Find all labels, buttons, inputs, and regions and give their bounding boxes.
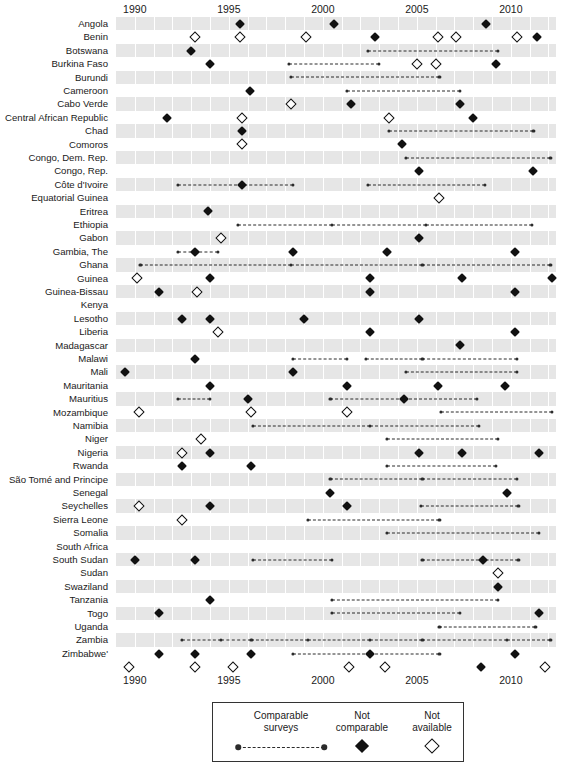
segment-endpoint	[346, 357, 349, 360]
country-label: Swaziland	[64, 580, 108, 593]
x-tick-1995: 1995	[217, 2, 240, 16]
x-tick-2005: 2005	[405, 2, 428, 16]
comparable-survey-segment	[308, 640, 370, 641]
comparable-survey-segment	[330, 398, 403, 399]
not-comparable-marker	[365, 273, 375, 283]
not-comparable-marker	[154, 649, 164, 659]
comparable-survey-segment	[422, 559, 518, 560]
country-label: Malawi	[78, 352, 108, 365]
legend-dash-line	[238, 747, 324, 748]
x-tick-2010: 2010	[499, 673, 522, 687]
country-label: Ethiopia	[73, 218, 108, 231]
not-available-marker	[411, 58, 422, 69]
legend-label: available	[401, 722, 463, 734]
chart-legend: ComparablesurveysNotcomparableNotavailab…	[212, 702, 464, 762]
segment-endpoint	[364, 357, 367, 360]
legend-item: Notavailable	[401, 710, 463, 755]
segment-endpoint	[459, 89, 462, 92]
comparable-survey-segment	[406, 157, 551, 158]
row-band	[116, 285, 556, 298]
not-comparable-marker	[433, 381, 443, 391]
not-available-marker	[432, 31, 443, 42]
country-label: Senegal	[73, 486, 108, 499]
legend-label: surveys	[233, 722, 329, 734]
segment-endpoint	[331, 598, 334, 601]
gridline-1990	[135, 17, 136, 668]
legend-label: Comparable	[233, 710, 329, 722]
country-label: Zimbabwe'	[62, 647, 108, 660]
gridline-2005	[417, 17, 418, 668]
country-label: Cabo Verde	[57, 97, 108, 110]
segment-endpoint	[385, 464, 388, 467]
comparable-survey-segment	[178, 398, 210, 399]
comparable-survey-segment	[291, 77, 440, 78]
not-available-marker	[492, 567, 503, 578]
not-comparable-marker	[532, 32, 542, 42]
not-comparable-marker	[468, 113, 478, 123]
comparable-survey-segment	[368, 184, 485, 185]
country-label: Burundi	[75, 71, 108, 84]
comparable-survey-segment	[293, 358, 348, 359]
country-label: Guinea-Bissau	[45, 285, 108, 298]
segment-endpoint	[438, 625, 441, 628]
comparable-survey-segment	[404, 398, 477, 399]
country-label: South Sudan	[53, 553, 108, 566]
not-available-marker	[300, 31, 311, 42]
comparable-survey-segment	[308, 519, 440, 520]
country-label: Sierra Leone	[53, 513, 108, 526]
segment-endpoint	[331, 223, 334, 226]
comparable-survey-segment	[422, 479, 516, 480]
country-label: Chad	[85, 124, 108, 137]
x-tick-1995: 1995	[217, 673, 240, 687]
country-label: Guinea	[77, 272, 108, 285]
country-label: Gambia, The	[53, 245, 108, 258]
country-label: Rwanda	[73, 459, 108, 472]
not-comparable-marker	[476, 662, 486, 672]
comparable-symbol	[233, 739, 329, 755]
comparable-survey-segment	[178, 184, 293, 185]
gridline-2006	[436, 17, 437, 668]
survey-availability-chart: 19901995200020052010 AngolaBeninBotswana…	[0, 0, 564, 770]
comparable-survey-segment	[421, 506, 519, 507]
comparable-survey-segment	[370, 653, 440, 654]
legend-label: Not	[331, 710, 393, 722]
x-tick-2010: 2010	[499, 2, 522, 16]
comparable-survey-segment	[441, 412, 552, 413]
gridline-2011	[530, 17, 531, 668]
gridline-2003	[379, 17, 380, 668]
comparable-survey-segment	[238, 224, 332, 225]
segment-endpoint	[425, 223, 428, 226]
country-label: Mali	[90, 365, 108, 378]
comparable-survey-segment	[387, 439, 498, 440]
plot-area	[116, 17, 556, 668]
row-band	[116, 97, 556, 110]
not-comparable-marker	[457, 273, 467, 283]
not-comparable-marker	[288, 247, 298, 257]
comparable-survey-segment	[289, 63, 379, 64]
not-available-marker	[511, 31, 522, 42]
country-label: Sudan	[80, 566, 108, 579]
legend-open-diamond	[424, 738, 440, 754]
segment-endpoint	[346, 89, 349, 92]
country-label: South Africa	[56, 540, 108, 553]
comparable-survey-segment	[253, 559, 332, 560]
legend-item: Comparablesurveys	[233, 710, 329, 755]
x-axis-bottom: 19901995200020052010	[0, 673, 564, 687]
row-band	[116, 205, 556, 218]
country-label: Seychelles	[62, 499, 108, 512]
gridline-2012	[548, 17, 549, 668]
gridline-1999	[304, 17, 305, 668]
legend-item: Notcomparable	[331, 710, 393, 755]
x-axis-top: 19901995200020052010	[0, 2, 564, 16]
not-comparable-marker	[414, 166, 424, 176]
row-band	[116, 231, 556, 244]
not-comparable-marker	[205, 595, 215, 605]
not-available-marker	[236, 139, 247, 150]
gridline-1994	[210, 17, 211, 668]
legend-dot	[321, 744, 327, 750]
not-available-marker	[379, 661, 390, 672]
comparable-survey-segment	[439, 626, 535, 627]
country-label: Mauritania	[63, 379, 108, 392]
country-label: Equatorial Guinea	[31, 191, 108, 204]
country-label: Comoros	[69, 138, 108, 151]
